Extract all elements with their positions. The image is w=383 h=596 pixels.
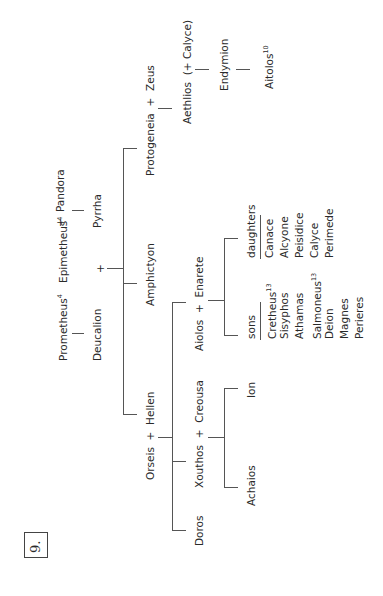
son-item: Perieres — [353, 297, 365, 339]
node-doros: Doros — [193, 516, 205, 547]
line-xouthos-bracket — [224, 388, 225, 487]
node-achaios: Achaios — [245, 465, 257, 506]
son-item: Sisyphos — [278, 293, 290, 339]
daughter-item: Calyce — [308, 223, 320, 258]
plus-sign: + — [54, 218, 66, 227]
node-amphictyon: Amphictyon — [144, 243, 156, 306]
line-to-achaios — [224, 487, 238, 488]
line-hellen-children — [158, 437, 172, 438]
line-epimetheus-pyrrha — [72, 210, 84, 211]
line-to-amphictyon — [123, 283, 137, 284]
son-item: Athamas — [293, 293, 305, 339]
line-xouthos-children — [208, 437, 224, 438]
daughter-item: Perimede — [323, 209, 335, 258]
line-aethlios-endymion — [195, 69, 209, 70]
node-pyrrha: Pyrrha — [91, 194, 103, 228]
line-deucalion-pyrrha-children — [107, 268, 123, 269]
node-ion: Ion — [245, 382, 257, 398]
son-item: Magnes — [338, 298, 350, 339]
line-aiolos-children — [208, 300, 224, 301]
node-pandora: Pandora — [54, 169, 66, 212]
line-aiolos-bracket — [224, 238, 225, 335]
plus-sign: + — [94, 264, 106, 273]
node-endymion: Endymion — [218, 39, 230, 91]
line-to-daughters — [224, 238, 238, 239]
node-orseis-hellen: Orseis + Hellen — [144, 392, 156, 480]
figure-number-box: 9. — [24, 532, 48, 558]
daughters-underline — [260, 215, 261, 259]
node-aiolos-enarete: Aiolos + Enarete — [193, 257, 205, 351]
line-to-doros — [172, 530, 186, 531]
daughter-item: Alcyone — [278, 216, 290, 258]
node-xouthos-creousa: Xouthos + Creousa — [193, 380, 205, 488]
line-hellen-bracket — [172, 302, 173, 530]
daughter-item: Canace — [263, 219, 275, 258]
line-endymion-aitolos — [236, 69, 250, 70]
node-aitolos: Aitolos10 — [260, 45, 275, 89]
line-to-sons — [224, 335, 238, 336]
node-aethlios: Aethlios (+ Calyce) — [181, 20, 193, 124]
sons-header: sons — [245, 315, 257, 339]
line-to-protogeneia — [123, 148, 137, 149]
daughter-item: Peisidice — [293, 212, 305, 258]
sons-underline — [260, 302, 261, 340]
line-prometheus-deucalion — [72, 333, 84, 334]
son-item: Deion — [323, 308, 335, 339]
daughters-header: daughters — [245, 205, 257, 258]
son-item: Salmoneus13 — [308, 273, 323, 339]
figure-number: 9. — [28, 541, 43, 553]
son-item: Cretheus13 — [263, 283, 278, 339]
line-to-ion — [224, 388, 238, 389]
line-to-aiolos — [172, 302, 186, 303]
line-to-hellen — [123, 414, 137, 415]
line-children-bracket — [123, 148, 124, 414]
line-protogeneia-aethlios — [158, 108, 172, 109]
line-to-xouthos — [172, 461, 186, 462]
node-prometheus: Prometheus4 — [54, 294, 69, 361]
node-deucalion: Deucalion — [91, 309, 103, 361]
node-protogeneia-zeus: Protogeneia + Zeus — [144, 65, 156, 176]
